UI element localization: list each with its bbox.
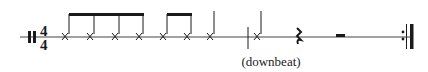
x-note-6 bbox=[184, 14, 191, 40]
quarter-rest-icon bbox=[297, 28, 301, 44]
x-note-5 bbox=[160, 14, 167, 40]
x-note-8-downbeat bbox=[254, 11, 261, 40]
x-note-3 bbox=[112, 14, 119, 40]
x-note-1 bbox=[62, 14, 69, 40]
x-note-2 bbox=[87, 14, 94, 40]
time-signature: 4 4 bbox=[40, 23, 48, 53]
x-note-7 bbox=[207, 11, 214, 40]
beam-group-2 bbox=[167, 13, 192, 16]
time-signature-bottom: 4 bbox=[40, 37, 48, 53]
rhythm-staff: 4 4 bbox=[0, 0, 428, 72]
beam-group-1 bbox=[69, 13, 144, 16]
half-rest-icon bbox=[336, 34, 345, 37]
x-note-4 bbox=[136, 14, 143, 40]
downbeat-annotation: (downbeat) bbox=[229, 54, 313, 70]
